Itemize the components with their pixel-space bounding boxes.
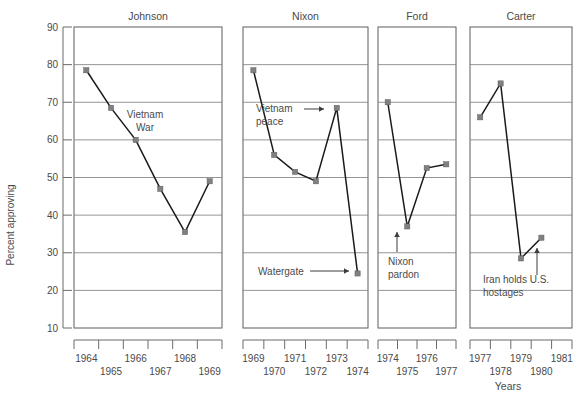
- data-point: [518, 256, 523, 261]
- series-line-carter: [480, 83, 541, 258]
- data-point: [292, 169, 297, 174]
- annotation-iran-hostages-line2: hostages: [483, 287, 524, 298]
- data-point: [424, 165, 429, 170]
- x-tick-label: 1972: [305, 366, 328, 377]
- annotation-watergate-label: Watergate: [258, 266, 304, 277]
- x-tick-label: 1969: [242, 353, 265, 364]
- data-point: [444, 162, 449, 167]
- annotation-nixon-pardon-arrow: [394, 232, 400, 252]
- x-tick-label: 1977: [469, 353, 492, 364]
- chart-container: Percent approving 908070605040302010 Joh…: [0, 0, 580, 400]
- x-tick-label: 1977: [435, 366, 458, 377]
- x-tick-label: 1968: [174, 353, 197, 364]
- x-tick-label: 1974: [346, 366, 369, 377]
- annotation-vietnam-peace-line1: Vietnam: [256, 103, 293, 114]
- x-tick-label: 1978: [489, 366, 512, 377]
- data-point: [182, 229, 187, 234]
- y-tick-label: 70: [47, 97, 59, 108]
- annotation-nixon-pardon-line1: Nixon: [388, 256, 414, 267]
- x-tick-label: 1979: [510, 353, 533, 364]
- panel-title-carter: Carter: [506, 10, 536, 22]
- x-tick-label: 1966: [125, 353, 148, 364]
- data-point: [108, 105, 113, 110]
- series-line-nixon: [253, 70, 357, 273]
- annotation-vietnam-war-line2: War: [136, 122, 155, 133]
- x-tick-label: 1965: [100, 366, 123, 377]
- data-point: [133, 137, 138, 142]
- annotations: VietnamWarVietnampeaceWatergateNixonpard…: [127, 103, 549, 298]
- x-tick-label: 1975: [396, 366, 419, 377]
- annotation-vietnam-war-line1: Vietnam: [127, 109, 164, 120]
- annotation-iran-hostages-arrow: [534, 248, 540, 275]
- annotation-iran-hostages-line1: Iran holds U.S.: [483, 274, 549, 285]
- x-tick-label: 1970: [263, 366, 286, 377]
- y-tick-label: 60: [47, 134, 59, 145]
- y-tick-label: 30: [47, 247, 59, 258]
- series-line-johnson: [86, 70, 209, 232]
- data-point: [405, 224, 410, 229]
- data-point: [334, 105, 339, 110]
- panel-nixon: Nixon196919701971197219731974: [242, 10, 369, 377]
- x-axis-label: Years: [495, 380, 521, 392]
- panel-ford: Ford1974197519761977: [377, 10, 458, 377]
- x-tick-label: 1969: [199, 366, 222, 377]
- y-tick-label: 80: [47, 59, 59, 70]
- approval-ratings-chart: Percent approving 908070605040302010 Joh…: [0, 0, 580, 400]
- panel-carter: Carter19771978197919801981: [469, 10, 573, 377]
- panels: Johnson196419651966196719681969Nixon1969…: [74, 10, 573, 377]
- data-point: [498, 81, 503, 86]
- x-tick-label: 1974: [377, 353, 400, 364]
- y-tick-label: 20: [47, 285, 59, 296]
- y-axis: 908070605040302010: [47, 22, 72, 334]
- data-point: [355, 271, 360, 276]
- x-tick-label: 1967: [149, 366, 172, 377]
- x-tick-label: 1976: [416, 353, 439, 364]
- y-tick-label: 10: [47, 323, 59, 334]
- x-tick-label: 1964: [75, 353, 98, 364]
- data-point: [272, 152, 277, 157]
- panel-title-nixon: Nixon: [292, 10, 319, 22]
- y-tick-label: 50: [47, 172, 59, 183]
- data-point: [478, 115, 483, 120]
- x-tick-label: 1980: [530, 366, 553, 377]
- annotation-nixon-pardon-line2: pardon: [388, 269, 419, 280]
- panel-title-ford: Ford: [406, 10, 428, 22]
- x-tick-label: 1981: [551, 353, 574, 364]
- panel-title-johnson: Johnson: [128, 10, 168, 22]
- series-line-ford: [388, 102, 447, 226]
- data-point: [539, 235, 544, 240]
- y-tick-label: 90: [47, 22, 59, 33]
- data-point: [207, 179, 212, 184]
- x-tick-label: 1973: [326, 353, 349, 364]
- x-tick-label: 1971: [284, 353, 307, 364]
- data-point: [385, 100, 390, 105]
- y-tick-label: 40: [47, 210, 59, 221]
- annotation-vietnam-peace-line2: peace: [256, 116, 284, 127]
- data-point: [158, 186, 163, 191]
- panel-johnson: Johnson196419651966196719681969: [74, 10, 222, 377]
- annotation-vietnam-peace-arrow: [304, 106, 324, 112]
- annotation-watergate-arrow: [310, 268, 349, 274]
- data-point: [313, 179, 318, 184]
- y-axis-label: Percent approving: [5, 184, 16, 265]
- data-point: [251, 68, 256, 73]
- data-point: [84, 68, 89, 73]
